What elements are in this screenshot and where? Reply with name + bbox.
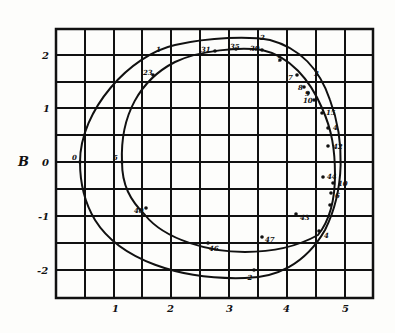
y-tick-label: 1 [43,103,50,114]
point-label: 40 [134,206,144,215]
y-tick-label: -2 [37,265,48,276]
point-label: 4 [333,123,338,132]
point-label: 10 [338,179,348,188]
x-tick-label: 3 [226,303,233,314]
point-label: 31 [201,45,211,54]
y-axis-symbol: B [17,154,29,169]
point-label: 1 [156,45,161,54]
point-label: 8 [298,83,303,92]
point-label: 15 [326,108,336,117]
point-label: 23 [142,68,153,77]
point-label: 4 [324,231,329,240]
point-label: 10 [303,96,313,105]
point-label: 7 [288,73,293,82]
y-tick-label: -1 [38,211,49,222]
point-label: 43 [300,213,310,222]
point-label: 35 [230,42,240,51]
x-tick-label: 2 [166,303,174,314]
y-tick-label: 0 [42,157,49,168]
y-tick-label: 2 [41,50,49,61]
point-label: 44 [327,172,337,181]
point-label: ·2 [245,273,252,282]
point-label: 0 [72,153,77,162]
point-label: 2 [259,33,265,42]
point-label: 3 [314,69,319,78]
loop-diagram: 0 5 1 23 31 35 39 2 7 7 3 8 9 10 15 4 42… [0,0,395,333]
x-tick-label: 1 [112,303,119,314]
x-tick-label: 4 [283,303,290,314]
point-label: 39 [250,44,260,53]
point-label: 7 [277,55,282,64]
x-tick-label: 5 [342,303,349,314]
point-label: 42 [333,142,343,151]
point-label: 47 [265,235,275,244]
point-label: 5 [113,153,118,162]
point-label: 6 [335,191,340,200]
point-label: 46 [209,244,219,253]
